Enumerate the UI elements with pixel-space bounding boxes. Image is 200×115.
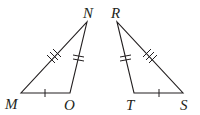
side-rs-ticks bbox=[143, 49, 157, 63]
congruent-triangles-diagram: M O N R T S bbox=[0, 0, 200, 115]
vertex-label-t: T bbox=[126, 97, 136, 113]
triangle-rst-outline bbox=[117, 22, 183, 93]
vertex-label-o: O bbox=[64, 97, 75, 113]
side-mn-ticks bbox=[47, 49, 61, 63]
triangle-rst bbox=[117, 22, 183, 97]
vertex-label-s: S bbox=[180, 97, 188, 113]
triangle-mno-outline bbox=[21, 22, 87, 93]
triangle-mno bbox=[21, 22, 87, 97]
vertex-label-m: M bbox=[4, 96, 19, 112]
vertex-label-r: R bbox=[110, 5, 120, 21]
vertex-label-n: N bbox=[82, 5, 94, 21]
